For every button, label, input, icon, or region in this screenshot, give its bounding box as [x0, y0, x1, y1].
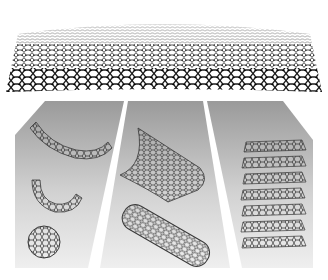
buckyball — [28, 226, 60, 258]
graphene-figure — [0, 0, 328, 280]
